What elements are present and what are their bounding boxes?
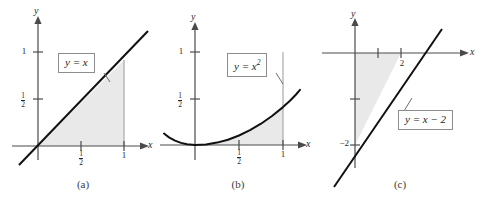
figure-three-panel-graphs: x y 1 1 2 1 2 1 y = x (a) x y 1 1 2 1 2 … — [0, 0, 496, 205]
panel-b-y-axis-label: y — [191, 11, 195, 22]
panel-b-equation-exponent: 2 — [257, 58, 261, 67]
panel-b-caption: (b) — [218, 178, 258, 190]
panel-a-caption: (a) — [63, 178, 103, 190]
fraction-one-half: 1 2 — [237, 149, 241, 166]
panel-c-x-axis-arrow — [460, 49, 469, 56]
panel-c-caption: (c) — [380, 178, 420, 190]
panel-a-x-axis-label: x — [148, 139, 152, 150]
fraction-one-half: 1 2 — [79, 150, 83, 167]
graphs-svg — [0, 0, 496, 205]
panel-b-equation-base: y = x — [234, 60, 257, 72]
fraction-one-half: 1 2 — [21, 92, 25, 109]
panel-b-shaded-region — [195, 107, 283, 145]
panel-b-y-axis-arrow — [191, 22, 198, 30]
panel-b-x-axis-label: x — [306, 138, 310, 149]
panel-a-graph — [12, 16, 149, 165]
panel-a-ytick-label-one: 1 — [17, 46, 31, 56]
panel-c-y-axis-arrow — [351, 18, 358, 26]
panel-a-y-axis-arrow — [34, 16, 41, 24]
panel-a-y-axis-label: y — [34, 5, 38, 16]
panel-a-xtick-label-half: 1 2 — [73, 150, 89, 167]
panel-b-label-leader — [276, 73, 283, 84]
panel-b-equation-label: y = x2 — [227, 53, 267, 77]
panel-c-ytick-label-minus-two: −2 — [333, 138, 349, 148]
fraction-one-half: 1 2 — [178, 92, 182, 109]
panel-b-graph — [160, 22, 307, 160]
panel-b-xtick-label-one: 1 — [276, 149, 290, 159]
panel-c-graph — [322, 18, 469, 187]
panel-b-ytick-label-one: 1 — [174, 46, 188, 56]
panel-b-xtick-label-half: 1 2 — [231, 149, 247, 166]
panel-a-equation-label: y = x — [58, 53, 95, 73]
panel-a-xtick-label-one: 1 — [117, 150, 131, 160]
panel-b-ytick-label-half: 1 2 — [172, 92, 188, 109]
panel-c-y-axis-label: y — [351, 8, 355, 19]
panel-a-ytick-label-half: 1 2 — [15, 92, 31, 109]
panel-c-xtick-label-two: 2 — [395, 58, 409, 68]
panel-c-equation-label: y = x − 2 — [398, 110, 453, 130]
panel-c-x-axis-label: x — [470, 46, 474, 57]
